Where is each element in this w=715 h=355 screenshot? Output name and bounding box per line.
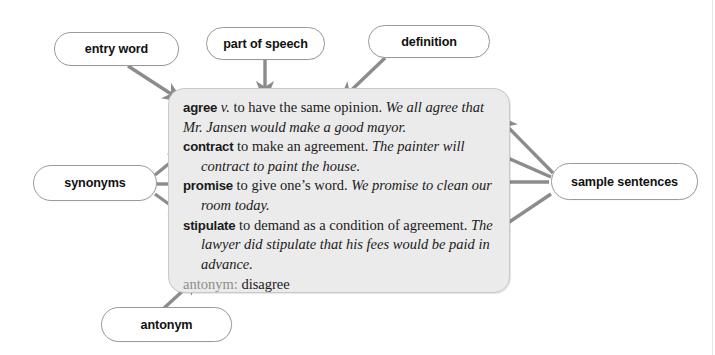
right-edge-rule (712, 0, 713, 355)
callout-synonyms[interactable]: synonyms (33, 165, 157, 201)
dictionary-entry-panel: agree v. to have the same opinion. We al… (168, 88, 510, 293)
callout-sample-sentences-label: sample sentences (571, 175, 678, 189)
headword-agree: agree (183, 100, 217, 115)
dictionary-entry-text: agree v. to have the same opinion. We al… (169, 89, 509, 295)
callout-entry-word-label: entry word (85, 42, 148, 56)
definition-stipulate: to demand as a condition of agreement. (239, 217, 467, 233)
callout-definition[interactable]: definition (368, 25, 490, 58)
callout-definition-label: definition (401, 35, 457, 49)
entry-sense-promise: promise to give one’s word. We promise t… (183, 176, 495, 215)
antonym-word: disagree (241, 276, 289, 292)
callout-antonym-label: antonym (141, 318, 193, 332)
callout-part-of-speech[interactable]: part of speech (206, 27, 325, 60)
entry-antonym-line: antonym: disagree (183, 275, 495, 295)
callout-entry-word[interactable]: entry word (54, 32, 179, 66)
headword-stipulate: stipulate (183, 218, 235, 233)
diagram-canvas: agree v. to have the same opinion. We al… (0, 0, 715, 355)
callout-part-of-speech-label: part of speech (223, 37, 308, 51)
antonym-label: antonym: (183, 276, 238, 292)
callout-antonym[interactable]: antonym (101, 307, 232, 342)
callout-synonyms-label: synonyms (64, 176, 126, 190)
headword-contract: contract (183, 139, 233, 154)
entry-sense-stipulate: stipulate to demand as a condition of ag… (183, 216, 495, 275)
part-of-speech-agree: v. (221, 99, 230, 115)
definition-contract: to make an agreement. (237, 138, 368, 154)
headword-promise: promise (183, 178, 233, 193)
entry-sense-agree: agree v. to have the same opinion. We al… (183, 98, 495, 137)
definition-agree: to have the same opinion. (233, 99, 382, 115)
callout-sample-sentences[interactable]: sample sentences (551, 163, 698, 200)
definition-promise: to give one’s word. (237, 177, 348, 193)
entry-sense-contract: contract to make an agreement. The paint… (183, 137, 495, 176)
